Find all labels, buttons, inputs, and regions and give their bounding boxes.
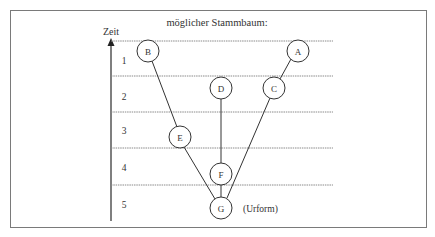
svg-text:B: B [145, 47, 151, 57]
edge-b-e [152, 61, 177, 127]
svg-text:E: E [177, 133, 183, 143]
svg-text:D: D [218, 84, 225, 94]
phylogenetic-tree-diagram: möglicher Stammbaum: Zeit 1 2 3 4 5 B [0, 0, 435, 237]
axis-label: Zeit [103, 26, 119, 37]
row-label-5: 5 [122, 200, 127, 210]
node-g: G [210, 197, 232, 219]
diagram-title: möglicher Stammbaum: [166, 17, 267, 28]
axis-arrow-icon [108, 38, 115, 46]
node-f: F [210, 163, 232, 185]
row-label-2: 2 [122, 92, 127, 102]
row-label-1: 1 [122, 56, 127, 66]
tree-nodes: B A D C E F G [137, 40, 309, 219]
row-label-4: 4 [122, 163, 127, 173]
node-a: A [287, 40, 309, 62]
node-e: E [169, 126, 191, 148]
row-label-3: 3 [122, 126, 127, 136]
urform-annotation: (Urform) [243, 204, 278, 215]
svg-text:G: G [218, 204, 225, 214]
node-b: B [137, 40, 159, 62]
svg-text:A: A [295, 47, 302, 57]
node-c: C [263, 77, 285, 99]
node-d: D [210, 77, 232, 99]
svg-text:F: F [218, 170, 223, 180]
svg-text:C: C [271, 84, 277, 94]
